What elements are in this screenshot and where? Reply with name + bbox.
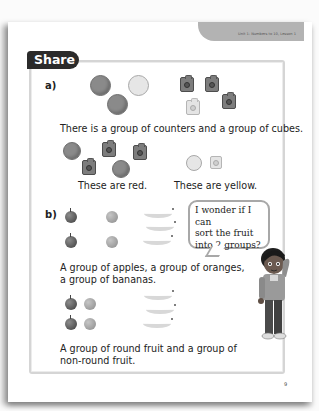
red-counter-icon [112,160,130,178]
part-b-sentence-2-line-1: A group of round fruit and a group of [60,343,237,355]
orange-icon [106,211,118,223]
section-title: Share [27,51,79,69]
unit-label: Unit 1: Numbers to 10, Lesson 1 [238,32,296,36]
red-cube-icon [222,94,236,109]
red-cube-icon [82,160,96,175]
part-a-label: a) [45,80,56,91]
banana-icon [146,222,174,231]
red-counter-icon [107,94,128,115]
yellow-cube-icon [210,156,222,169]
boy-character-icon [253,243,298,343]
part-b-sentence-1-line-2: a group of bananas. [60,274,156,286]
yellow-group-caption: These are yellow. [174,180,257,192]
banana-icon [144,209,172,218]
yellow-cube-icon [186,100,200,115]
part-b-sentence-1-line-1: A group of apples, a group of oranges, [60,262,245,274]
red-cube-icon [205,77,219,92]
banana-icon [144,291,172,300]
banana-icon [143,319,171,328]
page-number: 9 [284,381,287,387]
part-a-sentence: There is a group of counters and a group… [60,123,303,135]
apple-icon [65,298,77,310]
red-counter-icon [90,75,111,96]
red-counter-icon [63,142,81,160]
speech-bubble: I wonder if I can sort the fruit into 2 … [188,200,270,249]
yellow-counter-icon [128,75,149,96]
orange-icon [106,236,118,248]
red-cube-icon [133,145,147,160]
apple-icon [65,236,77,248]
part-b-label: b) [45,209,57,220]
apple-icon [65,211,77,223]
speech-line-1: I wonder if I can [195,205,263,228]
orange-icon [84,318,96,330]
yellow-counter-icon [186,155,202,171]
red-group-caption: These are red. [78,180,147,192]
red-cube-icon [180,77,194,92]
banana-icon [143,236,171,245]
red-cube-icon [102,142,116,157]
orange-icon [84,298,96,310]
unit-header-tab: Unit 1: Numbers to 10, Lesson 1 [198,22,304,41]
apple-icon [65,318,77,330]
speech-line-2: sort the fruit [195,228,263,240]
part-b-sentence-2-line-2: non-round fruit. [60,355,135,367]
banana-icon [146,305,174,314]
